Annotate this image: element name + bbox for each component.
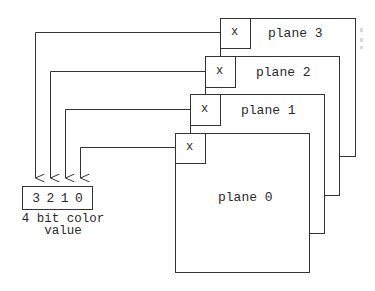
plane-0-pixel-label: x [186, 140, 193, 154]
plane-3-pixel-label: x [231, 25, 238, 39]
edge-artifact [360, 28, 363, 32]
plane-2-label: plane 2 [256, 65, 311, 80]
caption-line-2: value [8, 225, 118, 237]
bit-3: 3 [32, 191, 40, 206]
plane-1-pixel-label: x [201, 102, 208, 116]
bit-1-connector-arrow [66, 110, 191, 179]
plane-1-label: plane 1 [241, 103, 296, 118]
bit-0-connector-arrow [81, 148, 176, 179]
color-value-register: 3 2 1 0 [22, 186, 93, 210]
bit-0: 0 [75, 191, 83, 206]
edge-artifact [360, 38, 363, 42]
plane-3-label: plane 3 [268, 26, 323, 41]
plane-2-pixel-label: x [216, 64, 223, 78]
register-caption: 4 bit color value [8, 213, 118, 237]
plane-0-label: plane 0 [218, 190, 273, 205]
bit-2: 2 [46, 191, 54, 206]
edge-artifact [360, 46, 363, 49]
bit-1: 1 [61, 191, 69, 206]
